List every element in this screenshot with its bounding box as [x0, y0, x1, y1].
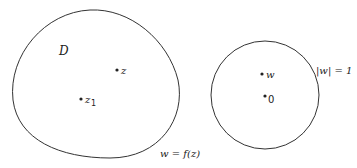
region-d-label: D — [58, 44, 69, 58]
point-z-label: z — [120, 65, 127, 76]
region-d-boundary — [13, 10, 180, 158]
origin-dot — [263, 94, 266, 97]
origin-label: 0 — [268, 94, 274, 105]
point-z-dot — [115, 68, 118, 71]
point-z1-label: z — [84, 94, 91, 105]
mapping-label: w = f(z) — [160, 148, 200, 159]
point-w-label: w — [266, 69, 275, 80]
point-w-dot — [260, 72, 263, 75]
unit-circle-label: |w| = 1 — [316, 65, 352, 77]
point-z1-dot — [79, 97, 82, 100]
point-z1-subscript: 1 — [91, 99, 96, 108]
conformal-map-diagram: D z z 1 w = f(z) |w| = 1 w 0 — [0, 0, 357, 168]
